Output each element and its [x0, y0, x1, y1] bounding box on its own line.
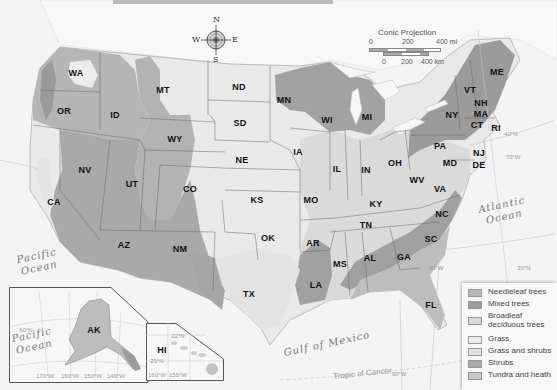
- scale-bar: Conic Projection 0 200 400 mi 0 200 400 …: [364, 28, 474, 68]
- graticule-label: 40°N: [504, 131, 517, 137]
- scale-mi-200: 200: [402, 38, 414, 45]
- compass-east: E: [232, 35, 238, 44]
- projection-label: Conic Projection: [378, 28, 436, 37]
- legend-label: Mixed trees: [488, 299, 529, 308]
- scale-mi-400: 400 mi: [436, 38, 457, 45]
- state-label-ak: AK: [87, 325, 100, 335]
- state-label-in: IN: [361, 165, 370, 175]
- state-label-ca: CA: [47, 197, 60, 207]
- legend-item-broadleaf: Broadleaf deciduous trees: [468, 311, 554, 329]
- graticule-label: 140°W: [107, 373, 125, 379]
- scale-km-0: 0: [382, 58, 386, 65]
- state-label-az: AZ: [118, 240, 130, 250]
- state-label-nm: NM: [173, 244, 187, 254]
- state-label-wi: WI: [321, 115, 332, 125]
- compass-west: W: [192, 35, 200, 44]
- graticule-label: 155°W: [169, 372, 187, 378]
- vegetation-map: N S W E Conic Projection 0 200 400 mi 0 …: [0, 0, 557, 390]
- state-label-id: ID: [110, 110, 119, 120]
- compass-rose: N S W E: [196, 20, 236, 60]
- state-label-hi: HI: [157, 345, 166, 355]
- graticule-label: 150°W: [84, 373, 102, 379]
- swatch-mixed: [468, 301, 482, 309]
- legend-item-shrubs: Shrubs: [468, 358, 513, 368]
- state-label-ks: KS: [251, 195, 264, 205]
- graticule-label: 160°W: [61, 373, 79, 379]
- state-label-mn: MN: [277, 95, 291, 105]
- legend-label: Shrubs: [488, 358, 513, 367]
- compass-icon: [196, 20, 236, 60]
- state-label-wy: WY: [168, 134, 183, 144]
- state-label-nd: ND: [232, 82, 245, 92]
- scale-km-400: 400 km: [421, 58, 444, 65]
- state-label-ky: KY: [370, 199, 383, 209]
- swatch-needleleaf: [468, 289, 482, 297]
- state-label-oh: OH: [388, 158, 402, 168]
- state-label-ms: MS: [333, 259, 347, 269]
- state-label-nh: NH: [474, 98, 487, 108]
- legend-label: Broadleaf deciduous trees: [488, 311, 550, 329]
- graticule-label: 60°N: [19, 327, 32, 333]
- legend: Needleleaf trees Mixed trees Broadleaf d…: [462, 283, 557, 390]
- graticule-label: 22°N: [171, 333, 184, 339]
- graticule-label: 80°W: [429, 265, 444, 271]
- state-label-ia: IA: [293, 147, 302, 157]
- state-label-wv: WV: [410, 175, 425, 185]
- scale-mi-0: 0: [369, 38, 373, 45]
- swatch-grass: [468, 336, 482, 344]
- state-label-al: AL: [364, 253, 376, 263]
- state-label-mo: MO: [304, 195, 319, 205]
- graticule-label: 160°W: [148, 372, 166, 378]
- legend-item-tundra: Tundra and heath: [468, 370, 551, 380]
- state-label-me: ME: [490, 67, 504, 77]
- graticule-label: 170°W: [36, 373, 54, 379]
- state-label-vt: VT: [464, 85, 476, 95]
- state-label-ut: UT: [126, 179, 138, 189]
- legend-item-needleleaf: Needleleaf trees: [468, 287, 546, 297]
- state-label-md: MD: [443, 158, 457, 168]
- scale-bar-km: [383, 52, 429, 56]
- swatch-tundra: [468, 372, 482, 380]
- legend-label: Needleleaf trees: [488, 287, 546, 296]
- legend-label: Tundra and heath: [488, 370, 551, 379]
- legend-label: Grass: [488, 334, 509, 343]
- state-label-il: IL: [333, 164, 341, 174]
- graticule-label: 20°N: [150, 358, 163, 364]
- state-label-ri: RI: [491, 123, 500, 133]
- state-label-ne: NE: [236, 155, 249, 165]
- state-label-ct: CT: [471, 120, 483, 130]
- state-label-de: DE: [473, 160, 486, 170]
- legend-item-grass-shrubs: Grass and shrubs: [468, 346, 551, 356]
- compass-north: N: [213, 15, 220, 24]
- state-label-mi: MI: [362, 112, 372, 122]
- state-label-la: LA: [310, 280, 322, 290]
- title-bar-strip: [113, 0, 333, 4]
- state-label-tx: TX: [243, 289, 255, 299]
- state-label-nc: NC: [435, 209, 448, 219]
- swatch-broadleaf: [468, 317, 482, 325]
- graticule-label: 90°W: [392, 371, 407, 377]
- state-label-ar: AR: [306, 238, 319, 248]
- state-label-co: CO: [183, 184, 197, 194]
- state-label-ok: OK: [261, 233, 275, 243]
- legend-label: Grass and shrubs: [488, 346, 551, 355]
- state-label-pa: PA: [434, 141, 446, 151]
- graticule-label: 70°W: [506, 154, 521, 160]
- state-label-va: VA: [434, 184, 446, 194]
- state-label-ny: NY: [446, 110, 459, 120]
- swatch-shrubs: [468, 360, 482, 368]
- state-label-or: OR: [57, 106, 71, 116]
- state-label-nj: NJ: [473, 148, 485, 158]
- state-label-tn: TN: [360, 220, 372, 230]
- swatch-grass-shrubs: [468, 348, 482, 356]
- state-label-sc: SC: [425, 234, 438, 244]
- state-label-ma: MA: [474, 109, 488, 119]
- state-label-ga: GA: [397, 252, 411, 262]
- legend-item-mixed: Mixed trees: [468, 299, 529, 309]
- state-label-mt: MT: [156, 85, 169, 95]
- state-label-nv: NV: [79, 165, 92, 175]
- state-label-fl: FL: [425, 300, 436, 310]
- graticule-label: 30°N: [517, 265, 530, 271]
- state-label-sd: SD: [234, 118, 247, 128]
- scale-km-200: 200: [401, 58, 413, 65]
